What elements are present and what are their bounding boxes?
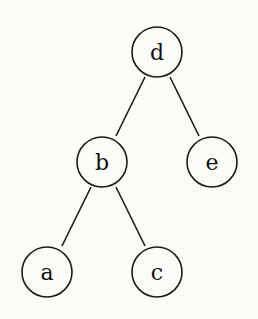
node-e-label: e xyxy=(205,150,218,175)
node-a: a xyxy=(22,247,72,297)
node-d: d xyxy=(132,27,182,77)
node-c: c xyxy=(132,247,182,297)
tree-diagram: d b e a c xyxy=(0,0,258,319)
edge-b-c xyxy=(116,187,145,246)
node-a-label: a xyxy=(40,260,53,285)
node-b: b xyxy=(77,137,127,187)
node-d-label: d xyxy=(150,40,164,65)
edge-d-e xyxy=(170,77,199,136)
edge-d-b xyxy=(116,77,145,136)
node-c-label: c xyxy=(151,260,163,285)
edges xyxy=(62,77,199,246)
node-e: e xyxy=(187,137,237,187)
nodes: d b e a c xyxy=(22,27,237,297)
edge-b-a xyxy=(62,187,91,246)
node-b-label: b xyxy=(95,150,109,175)
